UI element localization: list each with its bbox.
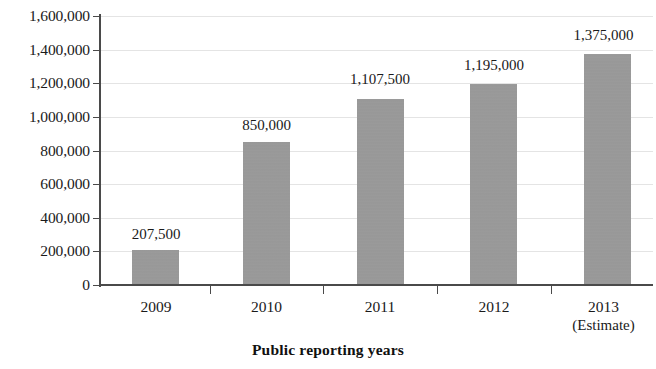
- x-axis-label-text: 2010: [251, 298, 282, 315]
- y-axis-label-1600000: 1,600,000: [29, 8, 90, 24]
- x-axis-label-sublabel: (Estimate): [551, 316, 656, 335]
- bar-value-label-2012: 1,195,000: [437, 58, 551, 73]
- y-axis-label-400000: 400,000: [40, 210, 90, 226]
- y-axis-tick: [93, 251, 100, 252]
- x-axis-label-2010: 2010: [210, 298, 323, 316]
- x-axis-tick: [210, 286, 211, 294]
- x-axis-label-text: 2012: [479, 298, 510, 315]
- y-axis-tick: [93, 218, 100, 219]
- bar-value-label-2013: 1,375,000: [551, 28, 656, 43]
- y-axis-tick: [93, 184, 100, 185]
- bar-value-label-2011: 1,107,500: [323, 72, 437, 87]
- x-axis-tick: [323, 286, 324, 294]
- y-axis-tick: [93, 117, 100, 118]
- y-axis-tick: [93, 83, 100, 84]
- x-axis-title: Public reporting years: [0, 341, 656, 359]
- x-axis-label-2012: 2012: [437, 298, 551, 316]
- y-axis-tick: [93, 50, 100, 51]
- bar-value-label-2009: 207,500: [100, 227, 212, 242]
- x-axis-tick: [437, 286, 438, 294]
- plot-area: [100, 16, 653, 285]
- x-axis-label-2009: 2009: [100, 298, 212, 316]
- x-axis-label-text: 2009: [141, 298, 172, 315]
- y-axis-label-200000: 200,000: [40, 243, 90, 259]
- y-axis-tick: [93, 151, 100, 152]
- x-axis-tick: [551, 286, 552, 294]
- y-axis-label-0: 0: [82, 277, 90, 293]
- y-axis-label-1400000: 1,400,000: [29, 42, 90, 58]
- bar-value-label-2010: 850,000: [210, 118, 323, 133]
- y-axis-tick: [93, 285, 100, 286]
- bar-2011: [357, 99, 404, 285]
- bar-2009: [132, 250, 179, 285]
- y-axis-label-800000: 800,000: [40, 143, 90, 159]
- gridline: [100, 50, 653, 51]
- gridline: [100, 16, 653, 17]
- bar-2013: [584, 54, 631, 285]
- y-axis-label-1000000: 1,000,000: [29, 109, 90, 125]
- y-axis-tick: [93, 16, 100, 17]
- bar-chart-figure: 1,600,000 1,400,000 1,200,000 1,000,000 …: [0, 0, 656, 369]
- x-axis-label-2013: 2013 (Estimate): [551, 298, 656, 335]
- bar-2010: [243, 142, 290, 285]
- x-axis-label-text: 2011: [365, 298, 395, 315]
- x-axis-line: [99, 284, 653, 286]
- x-axis-label-2011: 2011: [323, 298, 437, 316]
- x-axis-label-text: 2013: [588, 298, 619, 315]
- bar-2012: [470, 84, 517, 285]
- y-axis-label-1200000: 1,200,000: [29, 75, 90, 91]
- y-axis-label-600000: 600,000: [40, 176, 90, 192]
